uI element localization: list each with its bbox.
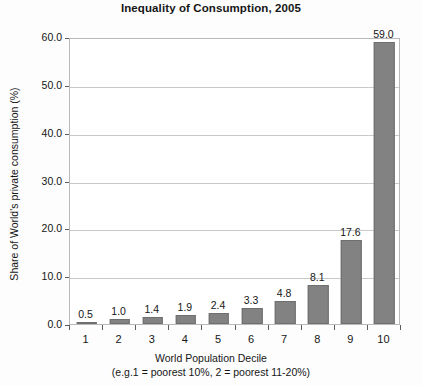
x-axis-tick bbox=[135, 325, 136, 330]
chart-figure: Inequality of Consumption, 2005 Share of… bbox=[0, 0, 422, 386]
bar-slot bbox=[236, 39, 269, 324]
y-axis-tick-label: 20.0 bbox=[42, 222, 62, 234]
y-axis-title: Share of World's private consumption (%) bbox=[8, 59, 20, 309]
bar bbox=[374, 42, 395, 324]
x-axis-tick bbox=[268, 325, 269, 330]
x-axis-category-label: 10 bbox=[367, 333, 400, 345]
x-axis-tick bbox=[168, 325, 169, 330]
bar bbox=[209, 313, 230, 324]
x-axis-category-label: 6 bbox=[235, 333, 268, 345]
x-axis-category-label: 5 bbox=[201, 333, 234, 345]
x-axis-category-label: 7 bbox=[268, 333, 301, 345]
x-axis-category-label: 8 bbox=[301, 333, 334, 345]
chart-title: Inequality of Consumption, 2005 bbox=[0, 2, 422, 14]
bar-slot bbox=[70, 39, 103, 324]
y-axis-tick-label: 30.0 bbox=[42, 175, 62, 187]
x-axis-category-label: 9 bbox=[334, 333, 367, 345]
bar bbox=[76, 322, 97, 324]
x-axis-tick bbox=[400, 325, 401, 330]
x-axis-tick bbox=[235, 325, 236, 330]
bar-slot bbox=[269, 39, 302, 324]
bar bbox=[308, 285, 329, 324]
x-axis-category-label: 2 bbox=[102, 333, 135, 345]
x-axis-tick bbox=[334, 325, 335, 330]
bar bbox=[109, 319, 130, 324]
y-axis-tick-label: 60.0 bbox=[42, 31, 62, 43]
bar bbox=[275, 301, 296, 324]
y-axis-tick-label: 0.0 bbox=[47, 318, 62, 330]
bar-slot bbox=[169, 39, 202, 324]
bar-value-label: 2.4 bbox=[211, 299, 226, 311]
x-axis-title: World Population Decile bbox=[0, 352, 422, 364]
x-axis-category-label: 1 bbox=[69, 333, 102, 345]
x-axis-tick bbox=[102, 325, 103, 330]
x-axis-tick bbox=[201, 325, 202, 330]
x-axis-subtitle: (e.g.1 = poorest 10%, 2 = poorest 11-20%… bbox=[0, 366, 422, 378]
x-axis-category-label: 4 bbox=[168, 333, 201, 345]
bar-slot bbox=[335, 39, 368, 324]
y-axis-tick-label: 10.0 bbox=[42, 270, 62, 282]
bar-slot bbox=[136, 39, 169, 324]
bar-value-label: 4.8 bbox=[277, 287, 292, 299]
plot-area bbox=[69, 38, 400, 325]
bar-value-label: 59.0 bbox=[373, 28, 393, 40]
bar-value-label: 17.6 bbox=[340, 226, 360, 238]
y-axis-tick-label: 50.0 bbox=[42, 79, 62, 91]
x-axis-category-label: 3 bbox=[135, 333, 168, 345]
x-axis-tick bbox=[367, 325, 368, 330]
bar bbox=[242, 308, 263, 324]
x-axis-tick bbox=[69, 325, 70, 330]
bar-slot bbox=[368, 39, 401, 324]
bar-value-label: 8.1 bbox=[310, 271, 325, 283]
bar bbox=[176, 315, 197, 324]
y-axis-tick-label: 40.0 bbox=[42, 127, 62, 139]
bar-slot bbox=[103, 39, 136, 324]
bar-slot bbox=[202, 39, 235, 324]
bar bbox=[142, 317, 163, 324]
bar bbox=[341, 240, 362, 324]
bar-value-label: 3.3 bbox=[244, 294, 259, 306]
bar-value-label: 0.5 bbox=[78, 308, 93, 320]
bar-value-label: 1.0 bbox=[111, 305, 126, 317]
x-axis-tick bbox=[301, 325, 302, 330]
bar-value-label: 1.4 bbox=[144, 303, 159, 315]
bar-value-label: 1.9 bbox=[178, 301, 193, 313]
